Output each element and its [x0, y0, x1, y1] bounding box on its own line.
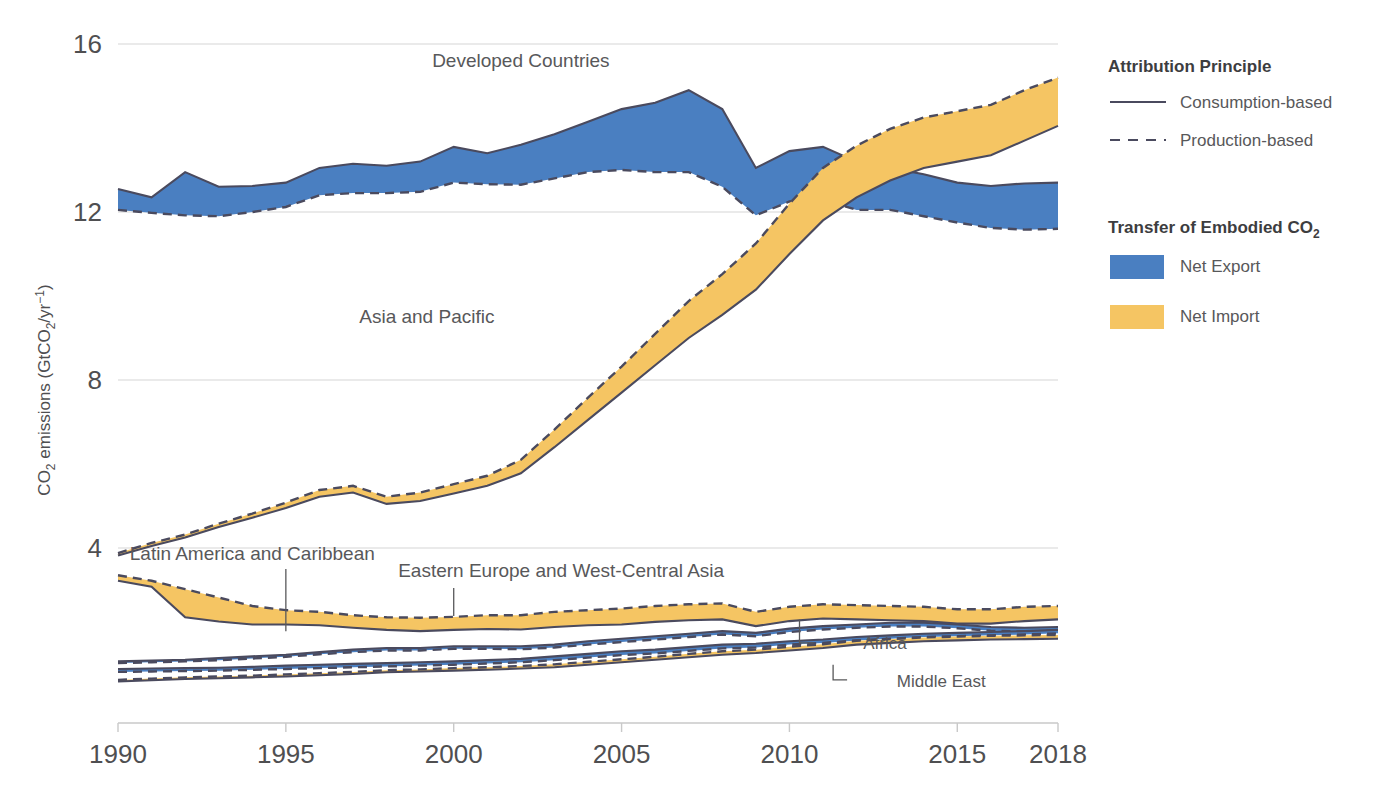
x-tick-label-2018: 2018 [1029, 739, 1087, 769]
x-tick-label-2010: 2010 [761, 739, 819, 769]
x-tick-label-1990: 1990 [89, 739, 147, 769]
y-axis-title: CO2 emissions (GtCO2/yr−1) [33, 284, 58, 495]
y-tick-label-8: 8 [88, 365, 102, 395]
legend-item-consumption-based[interactable]: Consumption-based [1110, 93, 1332, 112]
legend-label: Production-based [1180, 131, 1313, 150]
axes [118, 723, 1058, 732]
legend-label: Net Export [1180, 257, 1261, 276]
y-tick-label-12: 12 [73, 197, 102, 227]
y-axis-title-text: CO2 emissions (GtCO2/yr−1) [33, 284, 58, 495]
chart-container: 4812161990199520002005201020152018 Devel… [0, 0, 1373, 805]
series-label-developed-countries: Developed Countries [432, 50, 609, 71]
co2-emissions-area-chart: 4812161990199520002005201020152018 Devel… [0, 0, 1373, 805]
x-tick-label-2005: 2005 [593, 739, 651, 769]
legend-label: Net Import [1180, 307, 1260, 326]
legend: Attribution PrincipleConsumption-basedPr… [1108, 57, 1332, 329]
x-tick-label-1995: 1995 [257, 739, 315, 769]
y-tick-label-4: 4 [88, 533, 102, 563]
series-label-asia-and-pacific: Asia and Pacific [359, 306, 494, 327]
series-label-eastern-europe-and-west-central-asia: Eastern Europe and West-Central Asia [398, 560, 724, 581]
series-label-latin-america-and-caribbean: Latin America and Caribbean [130, 543, 375, 564]
legend-title-attribution: Attribution Principle [1108, 57, 1271, 76]
color-swatch [1110, 305, 1164, 329]
legend-item-production-based[interactable]: Production-based [1110, 131, 1313, 150]
y-tick-label-16: 16 [73, 29, 102, 59]
series-label-africa: Africa [863, 634, 907, 653]
legend-title-transfer: Transfer of Embodied CO2 [1108, 218, 1320, 241]
color-swatch [1110, 255, 1164, 279]
x-tick-label-2000: 2000 [425, 739, 483, 769]
legend-item-net-import[interactable]: Net Import [1110, 305, 1260, 329]
series-label-middle-east: Middle East [897, 672, 986, 691]
leader-line [833, 665, 847, 680]
x-tick-label-2015: 2015 [928, 739, 986, 769]
legend-item-net-export[interactable]: Net Export [1110, 255, 1261, 279]
legend-label: Consumption-based [1180, 93, 1332, 112]
